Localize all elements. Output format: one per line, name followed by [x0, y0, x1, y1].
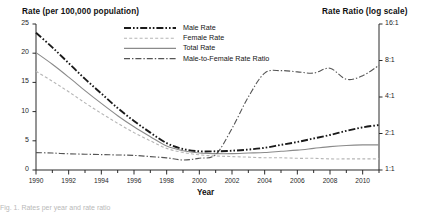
- x-axis-tick-label: 2010: [355, 177, 370, 184]
- left-axis-title: Rate (per 100,000 population): [22, 7, 139, 16]
- y-axis-tick-label: 20: [11, 48, 29, 55]
- y2-axis-tick-label: 1:1: [385, 165, 395, 172]
- series-line: [36, 65, 379, 160]
- x-axis-tick-label: 2000: [192, 177, 207, 184]
- legend-item-label: Male-to-Female Rate Ratio: [183, 54, 269, 63]
- y2-axis-tick-label: 4:1: [385, 92, 395, 99]
- y2-axis-tick-label: 8:1: [385, 56, 395, 63]
- legend-item-label: Total Rate: [183, 43, 215, 52]
- x-axis-tick-label: 1994: [94, 177, 109, 184]
- x-axis-tick-label: 1996: [127, 177, 142, 184]
- figure-container: Rate (per 100,000 population) Rate Ratio…: [0, 0, 431, 213]
- y2-axis-tick-label: 2:1: [385, 129, 395, 136]
- figure-caption-fragment: Fig. 1. Rates per year and rate ratio: [0, 204, 431, 213]
- right-axis-title: Rate Ratio (log scale): [322, 7, 407, 16]
- series-line: [36, 53, 379, 154]
- x-axis-tick-label: 1998: [159, 177, 174, 184]
- y2-axis-tick-label: 16:1: [385, 19, 399, 26]
- legend-item-label: Male Rate: [183, 23, 216, 32]
- y-axis-tick-label: 5: [11, 136, 29, 143]
- x-axis-tick-label: 2004: [257, 177, 272, 184]
- y-axis-tick-label: 15: [11, 77, 29, 84]
- x-axis-tick-label: 2008: [323, 177, 338, 184]
- series-line: [36, 71, 379, 159]
- y-axis-tick-label: 0: [11, 165, 29, 172]
- y-axis-tick-label: 10: [11, 107, 29, 114]
- legend-item-label: Female Rate: [183, 33, 224, 42]
- y-axis-tick-label: 25: [11, 19, 29, 26]
- x-axis-tick-label: 1990: [29, 177, 44, 184]
- x-axis-title: Year: [197, 188, 214, 197]
- x-axis-tick-label: 2006: [290, 177, 305, 184]
- x-axis-tick-label: 2002: [225, 177, 240, 184]
- x-axis-tick-label: 1992: [61, 177, 76, 184]
